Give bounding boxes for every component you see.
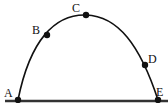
point-e-label: E <box>156 86 163 98</box>
point-c-label: C <box>72 2 80 14</box>
point-b-marker <box>44 32 50 38</box>
point-a-marker <box>15 97 21 103</box>
point-b-label: B <box>32 24 40 36</box>
point-a-label: A <box>4 87 13 99</box>
trajectory-diagram <box>0 0 168 103</box>
point-d-label: D <box>148 53 157 65</box>
point-c-marker <box>83 12 89 18</box>
